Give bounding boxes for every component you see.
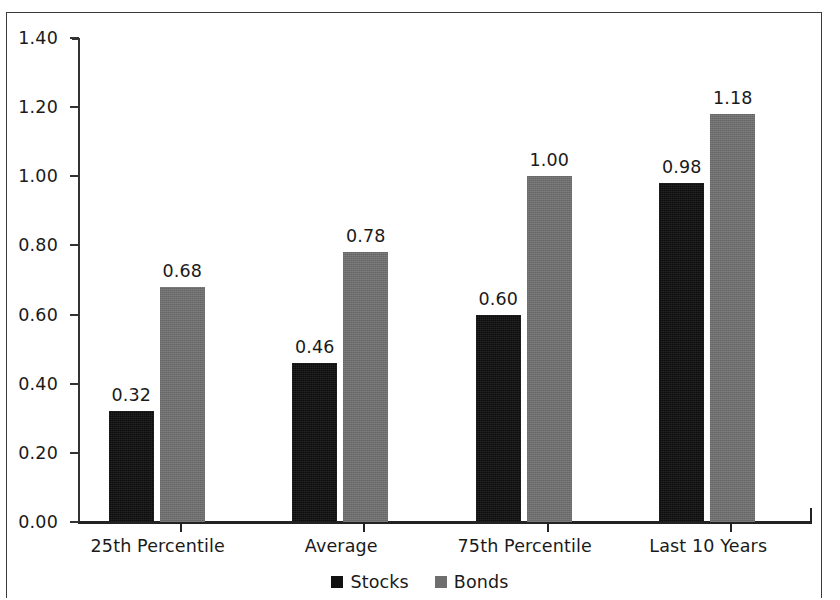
bar-value-label: 0.60: [478, 289, 518, 309]
chart-legend: StocksBonds: [0, 572, 840, 592]
legend-label: Bonds: [454, 572, 509, 592]
bar-stocks: [659, 183, 704, 522]
x-axis-tick: [730, 523, 732, 532]
bar-stocks: [476, 315, 521, 522]
legend-entry-stocks[interactable]: Stocks: [331, 572, 408, 592]
bar-value-label: 0.32: [111, 385, 151, 405]
y-axis-tick-label: 1.20: [18, 97, 58, 117]
y-axis-tick-label: 0.60: [18, 305, 58, 325]
x-axis-tick: [180, 523, 182, 532]
x-axis-category-label: Last 10 Years: [649, 536, 767, 556]
bar-value-label: 0.68: [162, 261, 202, 281]
x-axis-category-label: 25th Percentile: [91, 536, 225, 556]
bar-bonds: [527, 176, 572, 522]
bar-value-label: 0.46: [295, 337, 335, 357]
y-axis-tick-label: 1.00: [18, 166, 58, 186]
y-axis-tick-label: 0.00: [18, 512, 58, 532]
bar-bonds: [160, 287, 205, 522]
legend-swatch-icon: [435, 576, 447, 588]
bar-value-label: 0.98: [662, 157, 702, 177]
y-axis-tick-label: 0.20: [18, 443, 58, 463]
bar-bonds: [343, 252, 388, 522]
x-axis-category-label: Average: [305, 536, 378, 556]
y-axis-tick-label: 0.80: [18, 235, 58, 255]
bar-value-label: 1.00: [529, 150, 569, 170]
x-axis-category-label: 75th Percentile: [458, 536, 592, 556]
bar-stocks: [292, 363, 337, 522]
x-axis-tick: [547, 523, 549, 532]
y-axis-tick-label: 1.40: [18, 28, 58, 48]
bar-value-label: 0.78: [346, 226, 386, 246]
bar-stocks: [109, 411, 154, 522]
legend-entry-bonds[interactable]: Bonds: [435, 572, 509, 592]
y-axis-tick-label: 0.40: [18, 374, 58, 394]
legend-label: Stocks: [350, 572, 408, 592]
x-axis-tick: [363, 523, 365, 532]
bar-value-label: 1.18: [713, 88, 753, 108]
legend-swatch-icon: [331, 576, 343, 588]
bar-bonds: [710, 114, 755, 522]
